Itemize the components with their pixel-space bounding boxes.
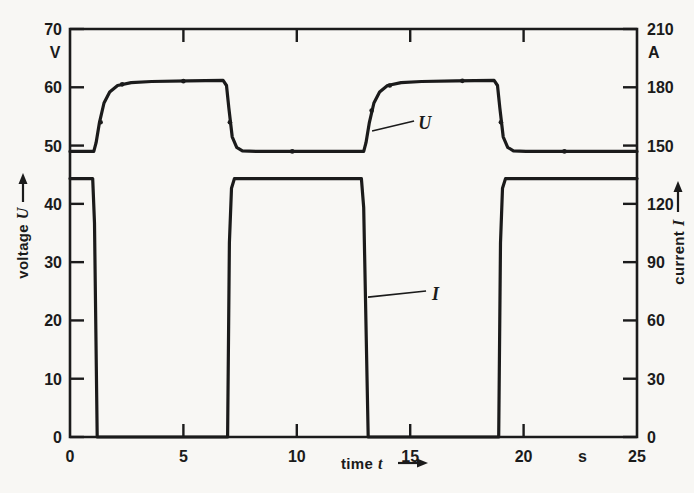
current-curve [70, 179, 637, 437]
curves-group [70, 79, 637, 437]
plot-frame-group [70, 29, 637, 437]
right-arrow-icon [417, 459, 428, 468]
right-axis-title-label: current [670, 231, 687, 285]
data-point-dot [181, 79, 186, 84]
data-point-dot [290, 149, 295, 154]
left-axis-title-symbol: U [14, 206, 31, 219]
up-arrow-icon [674, 181, 683, 192]
data-point-dot [98, 120, 103, 125]
data-point-dot [562, 149, 567, 154]
curve-label-U: U [418, 113, 432, 133]
right-tick-label: 150 [647, 138, 674, 155]
leader-line [372, 121, 414, 131]
left-tick-label: 50 [44, 138, 62, 155]
figure: 70V6050403020100210A18015012090603000510… [0, 0, 694, 493]
bottom-tick-label: 0 [66, 448, 75, 465]
plot-frame [70, 29, 637, 437]
right-tick-label: 210 [647, 21, 674, 38]
left-tick-label: 10 [44, 371, 62, 388]
data-point-dot [499, 120, 504, 125]
right-unit-label: A [648, 44, 660, 61]
left-tick-label: 60 [44, 79, 62, 96]
voltage-curve [70, 80, 637, 151]
axis-ticks-group [70, 29, 637, 437]
left-axis-title-text: voltageU [14, 206, 31, 279]
bottom-tick-label: 25 [628, 448, 646, 465]
left-tick-label: 0 [53, 429, 62, 446]
left-tick-label: 40 [44, 196, 62, 213]
data-point-dot [387, 83, 392, 88]
right-tick-label: 30 [647, 371, 665, 388]
up-arrow-icon [19, 173, 28, 184]
left-tick-label: 30 [44, 254, 62, 271]
x-unit-label: s [578, 448, 587, 465]
x-axis-title-text: timet [341, 455, 383, 472]
annotations-group: UI [368, 113, 440, 304]
left-axis-title-label: voltage [14, 224, 31, 279]
left-axis-title: voltageU [14, 173, 31, 279]
leader-line [368, 291, 426, 297]
left-unit-label: V [50, 44, 61, 61]
right-axis-title-text: currentI [670, 219, 687, 285]
right-axis-title-symbol: I [670, 219, 687, 227]
voltage-current-chart: 70V6050403020100210A18015012090603000510… [0, 0, 694, 493]
x-axis-title-symbol: t [378, 455, 383, 472]
left-tick-label: 20 [44, 312, 62, 329]
data-point-dot [460, 79, 465, 84]
bottom-tick-label: 10 [288, 448, 306, 465]
x-axis-title-label: time [341, 455, 373, 472]
left-tick-label: 70 [44, 21, 62, 38]
right-tick-label: 180 [647, 79, 674, 96]
right-tick-label: 60 [647, 312, 665, 329]
data-point-dot [120, 82, 125, 87]
data-point-dot [228, 120, 233, 125]
tick-labels-group: 70V6050403020100210A18015012090603000510… [44, 21, 674, 465]
right-tick-label: 120 [647, 196, 674, 213]
bottom-tick-label: 5 [179, 448, 188, 465]
right-tick-label: 0 [647, 429, 656, 446]
bottom-tick-label: 20 [515, 448, 533, 465]
right-tick-label: 90 [647, 254, 665, 271]
curve-label-I: I [431, 284, 440, 304]
data-point-dot [369, 108, 374, 113]
